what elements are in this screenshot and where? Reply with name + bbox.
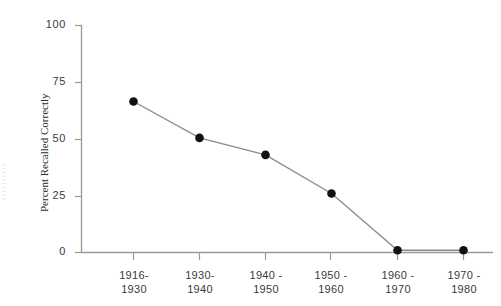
x-tick-label-line2: 1970 — [366, 282, 430, 296]
x-tick-label-line2: 1960 — [299, 282, 363, 296]
data-point-1940-1950 — [261, 151, 270, 160]
data-series-markers — [129, 97, 468, 254]
x-tick-label-line1: 1970 - — [432, 268, 496, 282]
data-point-1960-1970 — [393, 246, 402, 255]
x-tick-label-1960-1970: 1960 - 1970 — [366, 268, 430, 296]
y-tick-label-25: 25 — [30, 189, 66, 201]
x-tick-label-1930-1940: 1930- 1940 — [168, 268, 232, 296]
data-point-1950-1960 — [327, 189, 336, 198]
data-point-1916-1930 — [129, 97, 138, 106]
x-tick-label-line1: 1950 - — [299, 268, 363, 282]
x-tick-label-line1: 1960 - — [366, 268, 430, 282]
x-tick-label-line1: 1940 - — [234, 268, 298, 282]
line-chart-plot — [0, 0, 501, 306]
chart-axes — [82, 25, 494, 253]
x-tick-label-1970-1980: 1970 - 1980 — [432, 268, 496, 296]
x-tick-label-line1: 1916- — [102, 268, 166, 282]
x-tick-label-1950-1960: 1950 - 1960 — [299, 268, 363, 296]
y-tick-label-100: 100 — [30, 18, 66, 30]
y-tick-label-50: 50 — [30, 132, 66, 144]
x-tick-label-line2: 1940 — [168, 282, 232, 296]
x-tick-label-line2: 1930 — [102, 282, 166, 296]
x-tick-label-1940-1950: 1940 - 1950 — [234, 268, 298, 296]
x-tick-label-1916-1930: 1916- 1930 — [102, 268, 166, 296]
data-point-1970-1980 — [459, 246, 468, 255]
chart-figure: i r r i i i i i i i Percent Recalled Cor… — [0, 0, 501, 306]
data-point-1930-1940 — [195, 134, 204, 143]
y-tick-label-75: 75 — [30, 75, 66, 87]
data-series-line — [134, 102, 464, 251]
x-tick-label-line2: 1980 — [432, 282, 496, 296]
x-axis-ticks — [134, 252, 464, 260]
x-tick-label-line1: 1930- — [168, 268, 232, 282]
y-tick-label-0: 0 — [30, 245, 66, 257]
x-tick-label-line2: 1950 — [234, 282, 298, 296]
